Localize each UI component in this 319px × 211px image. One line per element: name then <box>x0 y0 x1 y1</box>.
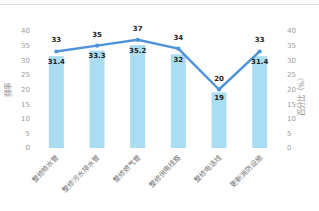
chart-canvas: 05101520253035400510152025303540频率百分比（%）… <box>0 0 319 211</box>
y-axis-left-tick-label: 30 <box>21 57 30 65</box>
line-point <box>136 38 140 42</box>
y-axis-right-tick-label: 15 <box>287 101 296 109</box>
bar <box>171 54 186 148</box>
y-axis-left-tick-label: 0 <box>26 144 30 152</box>
bar <box>49 56 64 148</box>
y-axis-right-title: 百分比（%） <box>296 74 306 116</box>
y-axis-right-tick-label: 10 <box>287 115 296 123</box>
line-value-label: 35 <box>92 31 102 39</box>
bar-value-label: 19 <box>214 94 224 102</box>
line-value-label: 33 <box>51 36 61 44</box>
line-point <box>95 44 99 48</box>
y-axis-left-tick-label: 15 <box>21 101 30 109</box>
bar-value-label: 31.4 <box>251 58 268 66</box>
category-label: 更新消防设施 <box>228 153 264 189</box>
category-label: 整修污水排水管 <box>60 153 101 194</box>
page: 05101520253035400510152025303540频率百分比（%）… <box>0 0 319 211</box>
bar <box>130 45 145 148</box>
line-point <box>176 46 180 50</box>
line-point <box>54 49 58 53</box>
bar-value-label: 31.4 <box>48 58 65 66</box>
y-axis-left-tick-label: 35 <box>21 42 30 50</box>
y-axis-left-title: 频率 <box>3 82 13 97</box>
bar-value-label: 33.3 <box>88 52 105 60</box>
category-label: 整修供电线路 <box>147 153 183 189</box>
y-axis-left-tick-label: 10 <box>21 115 30 123</box>
line-value-label: 34 <box>173 34 183 42</box>
line-value-label: 33 <box>255 36 265 44</box>
y-axis-right-tick-label: 40 <box>287 27 296 35</box>
y-axis-right-tick-label: 30 <box>287 57 296 65</box>
line-series <box>56 40 259 90</box>
y-axis-right-tick-label: 20 <box>287 86 296 94</box>
category-label: 整修给水管 <box>30 153 61 184</box>
combo-chart: 05101520253035400510152025303540频率百分比（%）… <box>0 0 319 211</box>
y-axis-left-tick-label: 5 <box>26 130 30 138</box>
bar-value-label: 32 <box>173 56 183 64</box>
bar <box>252 56 267 148</box>
y-axis-left-tick-label: 25 <box>21 71 30 79</box>
y-axis-right-tick-label: 0 <box>287 144 291 152</box>
line-point <box>258 49 262 53</box>
category-label: 整修燃气管 <box>111 153 142 184</box>
y-axis-left-tick-label: 20 <box>21 86 30 94</box>
category-label: 整修电话线 <box>192 153 223 184</box>
y-axis-left-tick-label: 40 <box>21 27 30 35</box>
line-value-label: 20 <box>214 75 224 83</box>
y-axis-right-tick-label: 35 <box>287 42 296 50</box>
bar-value-label: 35.2 <box>129 47 146 55</box>
bar <box>90 51 105 148</box>
y-axis-right-tick-label: 5 <box>287 130 291 138</box>
line-point <box>217 87 221 91</box>
y-axis-right-tick-label: 25 <box>287 71 296 79</box>
line-value-label: 37 <box>133 25 143 33</box>
